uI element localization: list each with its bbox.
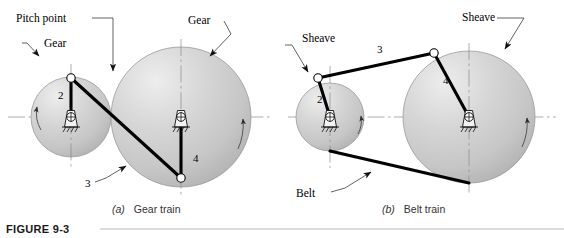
joint-a-34 (177, 174, 185, 182)
label-gear-large: Gear (188, 14, 211, 26)
label-gear-small: Gear (44, 37, 67, 49)
label-sheave-large: Sheave (462, 11, 495, 23)
belt-leader-tick (331, 188, 345, 192)
joint-b-23 (314, 74, 322, 82)
gear-large-leader (210, 21, 231, 56)
pitch-point-leader (92, 18, 113, 71)
caption-panel-b: (b) Belt train (382, 199, 445, 216)
sheave-small-leader (292, 45, 308, 72)
figure-9-3: Pitch point Gear Gear 2 3 4 (0, 0, 564, 238)
panel-captions: (a) Gear train (b) Belt train (112, 199, 445, 216)
label-link-4-b: 4 (443, 74, 449, 86)
label-pitch-point: Pitch point (16, 12, 67, 25)
joint-b-34 (430, 49, 438, 57)
label-link-3-a: 3 (85, 177, 91, 189)
label-link-2-b: 2 (317, 93, 323, 105)
link-3-leader-a (106, 166, 126, 178)
label-link-3-b: 3 (377, 43, 383, 55)
caption-panel-a: (a) Gear train (112, 199, 181, 216)
gear-train-panel: Pitch point Gear Gear 2 3 4 (8, 12, 272, 197)
belt-leader (345, 172, 371, 188)
label-belt: Belt (296, 187, 316, 199)
link-3-leader-a-tick (95, 178, 106, 182)
belt-train-panel: Sheave Sheave Belt 2 3 4 (285, 11, 556, 199)
mechanism-diagram: Pitch point Gear Gear 2 3 4 (0, 0, 564, 238)
gear-small-leader (27, 43, 39, 56)
sheave-large-leader (497, 18, 524, 49)
link-3-coupler-b (318, 53, 434, 78)
joint-a-23 (67, 74, 75, 82)
label-link-2-a: 2 (58, 89, 64, 101)
label-link-4-a: 4 (193, 152, 199, 164)
figure-number: FIGURE 9-3 (6, 223, 70, 235)
label-sheave-small: Sheave (302, 32, 335, 44)
